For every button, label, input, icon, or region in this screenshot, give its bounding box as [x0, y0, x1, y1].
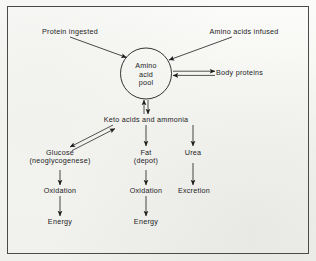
edge-protein-ingested-to-pool: [70, 37, 127, 58]
node-energy-middle: Energy: [119, 218, 173, 226]
glucose-line-2: (neoglycogenese): [22, 157, 98, 165]
node-body-proteins: Body proteins: [216, 69, 306, 77]
node-oxidation-left: Oxidation: [28, 187, 92, 195]
node-excretion: Excretion: [163, 187, 225, 195]
node-keto-acids: Keto acids and ammonia: [90, 116, 202, 124]
amino-acid-pool-line-3: pool: [116, 79, 176, 88]
node-energy-left: Energy: [33, 218, 87, 226]
edge-pool-to-body-proteins: [173, 71, 215, 75]
node-amino-acid-pool: Amino acid pool: [116, 62, 176, 88]
fat-line-2: (depot): [126, 157, 166, 165]
edge-keto-acids-to-glucose: [70, 125, 115, 151]
node-urea: Urea: [173, 149, 213, 157]
node-glucose: Glucose (neoglycogenese): [22, 149, 98, 166]
node-amino-acids-infused: Amino acids infused: [190, 28, 298, 36]
figure-page: Protein ingested Amino acids infused Ami…: [0, 0, 316, 261]
node-fat: Fat (depot): [126, 149, 166, 166]
node-protein-ingested: Protein ingested: [28, 28, 112, 36]
edge-amino-acids-infused-to-pool: [169, 37, 232, 60]
edge-pool-to-keto-acids: [144, 100, 148, 114]
